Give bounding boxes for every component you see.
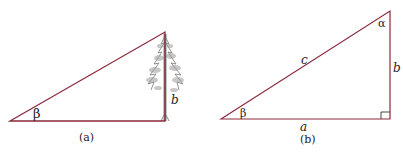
- angle-alpha-label-b: α: [378, 17, 386, 30]
- figure-a: β b (a): [10, 32, 184, 144]
- side-a-label-b: a: [300, 120, 307, 134]
- side-b-label-b: b: [393, 61, 401, 75]
- side-b-label-a: b: [171, 93, 179, 107]
- right-angle-marker: [381, 112, 390, 119]
- hypotenuse-c-label: c: [301, 53, 308, 67]
- figure-b: β α c b a (b): [221, 11, 401, 146]
- caption-a: (a): [79, 131, 94, 144]
- angle-beta-label-b: β: [240, 107, 246, 120]
- caption-b: (b): [300, 133, 316, 146]
- triangle-diagrams: β b (a) β α c b a (b): [0, 0, 403, 155]
- angle-beta-label-a: β: [33, 106, 41, 121]
